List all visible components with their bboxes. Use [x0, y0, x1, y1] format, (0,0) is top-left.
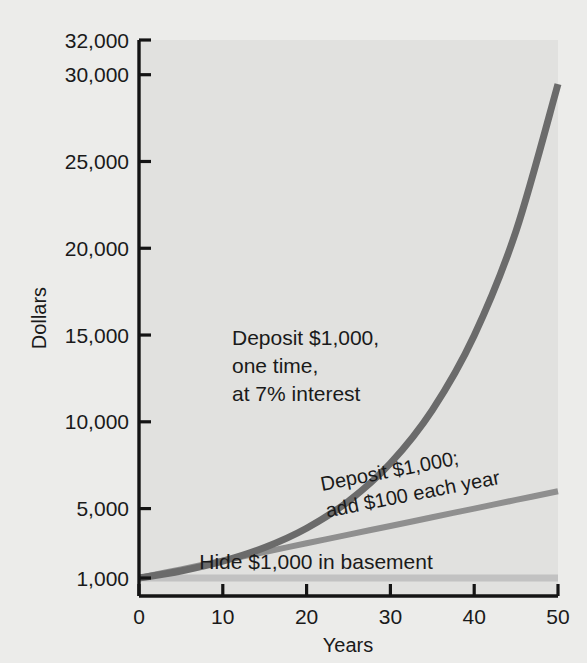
y-axis-title: Dollars	[28, 287, 50, 349]
annot-compound-line-1: Deposit $1,000,	[232, 326, 379, 349]
y-tick-label-0: 1,000	[76, 567, 129, 590]
compound-interest-line-chart: 1,0005,00010,00015,00020,00025,00030,000…	[0, 0, 587, 663]
x-tick-label-3: 30	[379, 605, 402, 628]
x-tick-label-5: 50	[546, 605, 569, 628]
y-tick-label-2: 10,000	[65, 410, 129, 433]
y-tick-label-4: 20,000	[65, 237, 129, 260]
y-tick-label-6: 30,000	[65, 63, 129, 86]
y-tick-label-3: 15,000	[65, 324, 129, 347]
annot-compound-line-2: one time,	[232, 354, 318, 377]
y-tick-label-5: 25,000	[65, 150, 129, 173]
x-axis-title: Years	[323, 634, 373, 656]
annot-compound-line-3: at 7% interest	[232, 382, 361, 405]
x-tick-label-0: 0	[133, 605, 145, 628]
x-tick-label-4: 40	[463, 605, 486, 628]
y-tick-label-7: 32,000	[65, 29, 129, 52]
x-tick-label-1: 10	[211, 605, 234, 628]
chart-container: 1,0005,00010,00015,00020,00025,00030,000…	[0, 0, 587, 663]
y-tick-label-1: 5,000	[76, 497, 129, 520]
x-tick-label-2: 20	[295, 605, 318, 628]
annot-basement: Hide $1,000 in basement	[199, 550, 433, 573]
